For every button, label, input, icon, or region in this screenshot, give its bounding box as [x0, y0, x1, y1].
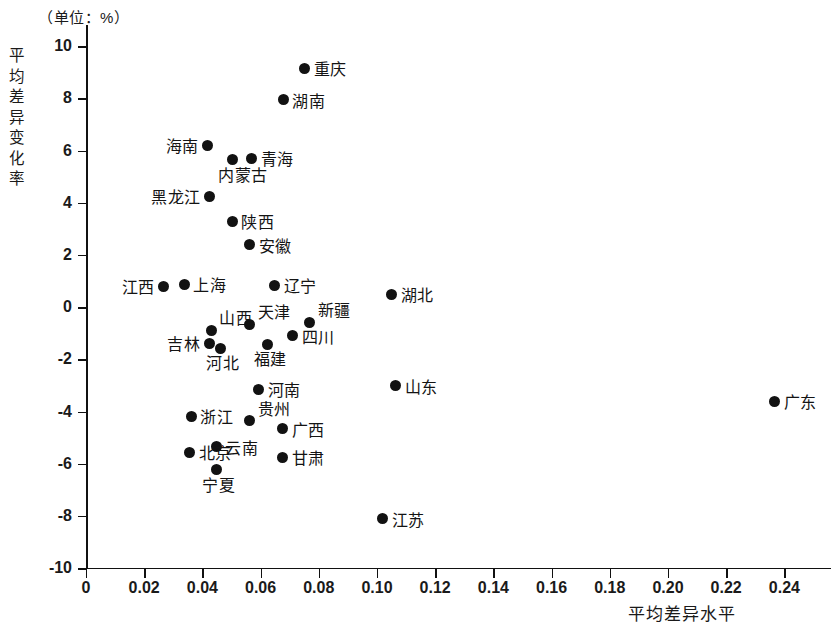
data-point[interactable] [769, 396, 780, 407]
data-point[interactable] [386, 289, 397, 300]
data-point-label: 上海 [193, 272, 226, 296]
y-tick [78, 255, 86, 256]
x-tick [377, 569, 378, 578]
y-tick [78, 203, 86, 204]
y-tick [78, 568, 86, 569]
x-tick-label: 0 [56, 579, 116, 597]
x-tick [726, 569, 727, 578]
x-tick [610, 569, 611, 578]
y-tick [78, 359, 86, 360]
x-axis-line [86, 568, 831, 570]
y-tick [78, 412, 86, 413]
y-tick-label: 6 [26, 142, 72, 160]
data-point[interactable] [299, 63, 310, 74]
data-point[interactable] [377, 513, 388, 524]
data-point[interactable] [287, 330, 298, 341]
y-tick-label: -4 [26, 403, 72, 421]
x-tick-label: 0.02 [114, 579, 174, 597]
data-point[interactable] [204, 338, 215, 349]
data-point-label: 浙江 [200, 404, 233, 428]
data-point-label: 江西 [122, 274, 155, 298]
x-tick [435, 569, 436, 578]
data-point-label: 四川 [302, 324, 335, 348]
data-point-label: 重庆 [314, 56, 347, 80]
data-point-label: 天津 [258, 299, 291, 323]
data-point-label: 吉林 [167, 331, 200, 355]
y-tick [78, 464, 86, 465]
y-tick [78, 307, 86, 308]
x-tick [144, 569, 145, 578]
x-tick-label: 0.14 [463, 579, 523, 597]
y-tick-label: -8 [26, 507, 72, 525]
x-tick-label: 0.08 [289, 579, 349, 597]
data-point[interactable] [278, 94, 289, 105]
y-tick-label: 4 [26, 194, 72, 212]
data-point-label: 内蒙古 [218, 162, 268, 186]
x-tick [261, 569, 262, 578]
data-point-label: 福建 [254, 346, 287, 370]
data-point-label: 湖南 [292, 88, 325, 112]
data-point-label: 宁夏 [202, 472, 235, 496]
x-tick-label: 0.12 [405, 579, 465, 597]
data-point-label: 广西 [292, 417, 325, 441]
x-tick-label: 0.20 [638, 579, 698, 597]
data-point[interactable] [244, 239, 255, 250]
unit-note: （单位：%） [38, 6, 129, 27]
data-point-label: 河北 [206, 350, 239, 374]
data-point[interactable] [206, 325, 217, 336]
data-point[interactable] [269, 280, 280, 291]
data-point[interactable] [179, 279, 190, 290]
y-tick-label: -10 [26, 559, 72, 577]
y-tick [78, 46, 86, 47]
y-tick-label: 2 [26, 246, 72, 264]
data-point-label: 湖北 [401, 282, 434, 306]
x-tick [202, 569, 203, 578]
x-tick [319, 569, 320, 578]
y-tick [78, 98, 86, 99]
data-point[interactable] [184, 447, 195, 458]
data-point[interactable] [277, 423, 288, 434]
data-point[interactable] [204, 191, 215, 202]
x-tick-label: 0.10 [347, 579, 407, 597]
data-point[interactable] [158, 281, 169, 292]
data-point-label: 山东 [405, 374, 438, 398]
data-point[interactable] [244, 415, 255, 426]
x-tick-label: 0.16 [522, 579, 582, 597]
x-tick [86, 569, 87, 578]
y-tick-label: -6 [26, 455, 72, 473]
data-point[interactable] [390, 380, 401, 391]
data-point[interactable] [186, 411, 197, 422]
data-point[interactable] [244, 319, 255, 330]
data-point-label: 广东 [784, 389, 817, 413]
y-tick [78, 151, 86, 152]
scatter-chart-canvas: （单位：%） 平均差异变化率 1086420-2-4-6-8-10 00.020… [0, 0, 837, 637]
x-tick-label: 0.04 [172, 579, 232, 597]
data-point-label: 江苏 [392, 507, 425, 531]
y-tick-label: -2 [26, 350, 72, 368]
x-tick [552, 569, 553, 578]
data-point[interactable] [253, 384, 264, 395]
y-tick [78, 516, 86, 517]
x-axis-title: 平均差异水平 [628, 600, 736, 625]
data-point[interactable] [227, 216, 238, 227]
data-point-label: 北京 [199, 440, 232, 464]
data-point-label: 安徽 [259, 233, 292, 257]
data-point-label: 甘肃 [292, 445, 325, 469]
data-point-label: 海南 [166, 133, 199, 157]
data-point-label: 黑龙江 [151, 184, 201, 208]
x-tick-label: 0.22 [696, 579, 756, 597]
y-axis-line [86, 25, 88, 569]
x-tick-label: 0.24 [754, 579, 814, 597]
data-point[interactable] [277, 452, 288, 463]
y-tick-label: 0 [26, 298, 72, 316]
y-axis-title: 平均差异变化率 [6, 46, 28, 190]
data-point[interactable] [202, 140, 213, 151]
data-point-label: 贵州 [258, 396, 291, 420]
x-tick-label: 0.06 [231, 579, 291, 597]
x-tick [784, 569, 785, 578]
y-tick-label: 8 [26, 89, 72, 107]
y-tick-label: 10 [26, 37, 72, 55]
x-tick-label: 0.18 [580, 579, 640, 597]
data-point-label: 陕西 [241, 209, 274, 233]
data-point-label: 新疆 [318, 297, 351, 321]
